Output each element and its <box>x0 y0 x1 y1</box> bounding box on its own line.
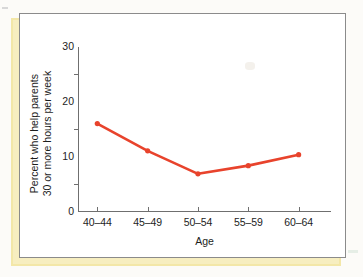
data-point-4 <box>296 152 301 157</box>
data-point-2 <box>195 171 200 176</box>
series-markers <box>95 121 302 176</box>
scan-artifact-left <box>2 7 8 9</box>
plot-area: Percent who help parents 30 or more hour… <box>20 14 347 259</box>
data-point-1 <box>145 148 150 153</box>
data-series-layer <box>20 14 347 259</box>
scan-artifact-corner <box>348 250 358 253</box>
data-point-0 <box>95 121 100 126</box>
series-line <box>97 124 298 174</box>
chart-figure-panel: Percent who help parents 30 or more hour… <box>19 13 346 258</box>
data-point-3 <box>246 163 251 168</box>
